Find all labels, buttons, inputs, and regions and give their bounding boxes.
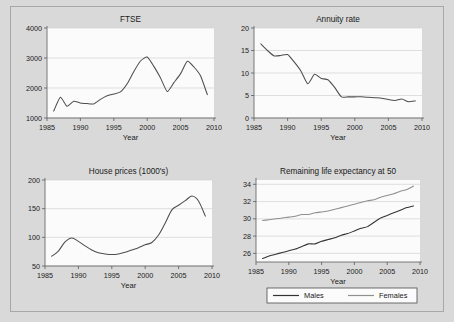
x-tick-label: 1985: [39, 123, 55, 132]
y-tick-label: 34: [243, 180, 251, 189]
panel-title: House prices (1000's): [89, 167, 169, 176]
x-axis-title: Year: [330, 277, 346, 286]
y-tick-label: 30: [243, 214, 251, 223]
x-tick-label: 2005: [171, 271, 187, 280]
x-tick-label: 1990: [281, 267, 297, 276]
house-prices-chart-svg: 50100150200198519901995200020052010YearH…: [12, 158, 222, 304]
x-tick-label: 2010: [412, 267, 428, 276]
y-tick-label: 200: [28, 176, 40, 185]
x-tick-label: 2000: [346, 267, 362, 276]
y-tick-label: 3000: [26, 54, 42, 63]
legend-label-females: Females: [379, 291, 408, 300]
x-tick-label: 2010: [204, 271, 220, 280]
y-tick-label: 5: [245, 91, 249, 100]
x-tick-label: 1995: [106, 123, 122, 132]
x-axis-title: Year: [121, 281, 137, 290]
legend-label-males: Males: [304, 291, 324, 300]
x-tick-label: 1985: [248, 267, 264, 276]
y-tick-label: 2000: [26, 84, 42, 93]
y-tick-label: 4000: [26, 24, 42, 33]
figure-panel-grid: 1000200030004000198519901995200020052010…: [0, 0, 454, 322]
x-tick-label: 2000: [347, 123, 363, 132]
annuity-chart-svg: 05101520198519901995200020052010YearAnnu…: [224, 6, 430, 158]
y-tick-label: 10: [241, 69, 249, 78]
x-tick-label: 2000: [137, 271, 153, 280]
y-tick-label: 15: [241, 46, 249, 55]
plot-area: [256, 180, 420, 262]
x-tick-label: 2010: [414, 123, 430, 132]
ftse-chart-svg: 1000200030004000198519901995200020052010…: [12, 6, 222, 158]
panel-title: FTSE: [120, 15, 141, 24]
x-tick-label: 1990: [70, 271, 86, 280]
y-tick-label: 20: [241, 24, 249, 33]
y-tick-label: 32: [243, 197, 251, 206]
x-tick-label: 1990: [72, 123, 88, 132]
y-tick-label: 28: [243, 232, 251, 241]
panel-title: Remaining life expectancy at 50: [280, 167, 397, 176]
x-tick-label: 2000: [139, 123, 155, 132]
y-tick-label: 100: [28, 233, 40, 242]
x-tick-label: 2005: [173, 123, 189, 132]
chart-panel-house-prices: 50100150200198519901995200020052010YearH…: [12, 158, 222, 304]
x-tick-label: 2010: [206, 123, 222, 132]
plot-area: [45, 180, 212, 266]
x-axis-title: Year: [330, 133, 346, 142]
x-tick-label: 1995: [314, 267, 330, 276]
y-tick-label: 26: [243, 249, 251, 258]
x-tick-label: 1985: [37, 271, 53, 280]
plot-area: [47, 28, 214, 118]
x-tick-label: 1985: [246, 123, 262, 132]
chart-panel-life-expectancy: 2628303234198519901995200020052010YearRe…: [224, 158, 430, 304]
x-tick-label: 1990: [280, 123, 296, 132]
x-tick-label: 2005: [379, 267, 395, 276]
panel-title: Annuity rate: [316, 15, 360, 24]
y-tick-label: 1000: [26, 114, 42, 123]
x-tick-label: 1995: [313, 123, 329, 132]
y-tick-label: 0: [245, 114, 249, 123]
x-tick-label: 2005: [380, 123, 396, 132]
life-expectancy-chart-svg: 2628303234198519901995200020052010YearRe…: [224, 158, 430, 304]
x-axis-title: Year: [123, 133, 139, 142]
chart-panel-ftse: 1000200030004000198519901995200020052010…: [12, 6, 222, 158]
y-tick-label: 50: [32, 262, 40, 271]
x-tick-label: 1995: [104, 271, 120, 280]
y-tick-label: 150: [28, 204, 40, 213]
chart-panel-annuity: 05101520198519901995200020052010YearAnnu…: [224, 6, 430, 158]
